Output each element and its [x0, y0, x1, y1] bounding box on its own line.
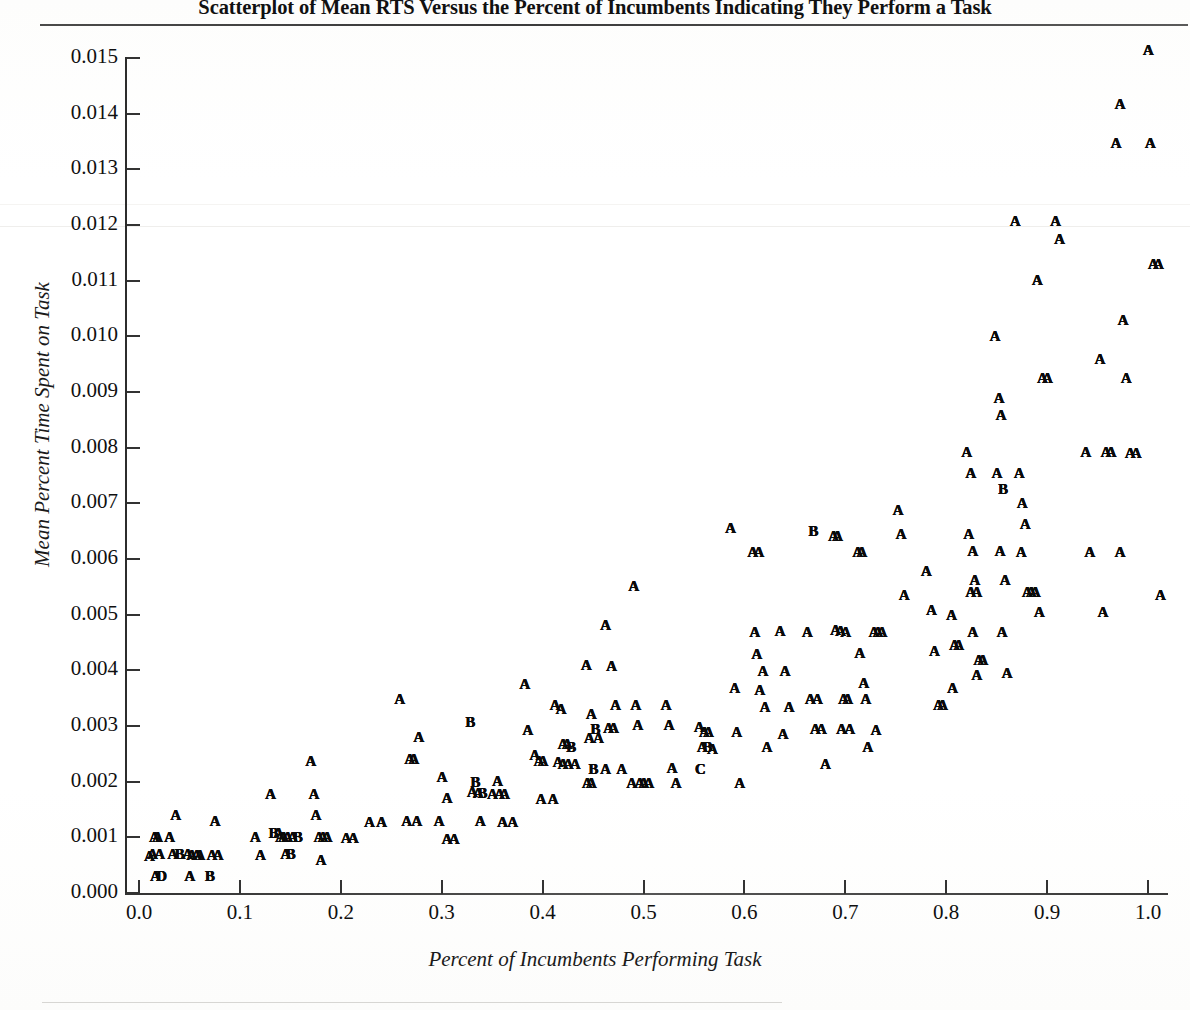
- scatter-marker-a: A: [876, 625, 886, 640]
- scatter-marker-a: A: [305, 753, 315, 768]
- x-tick-label: 1.0: [1118, 900, 1178, 925]
- scatter-marker-a: A: [749, 625, 759, 640]
- x-axis-title: Percent of Incumbents Performing Task: [0, 947, 1190, 972]
- y-tick-label: 0.012: [0, 211, 118, 236]
- scatter-marker-a: A: [661, 697, 671, 712]
- scatter-marker-a: A: [1145, 135, 1155, 150]
- scatter-marker-a: A: [967, 625, 977, 640]
- scatter-marker-a: A: [322, 830, 332, 845]
- scatter-marker-a: A: [778, 727, 788, 742]
- y-tick-mark: [127, 168, 140, 170]
- x-tick-label: 0.0: [109, 900, 169, 925]
- scatter-marker-a: A: [965, 465, 975, 480]
- scatter-marker-a: A: [729, 681, 739, 696]
- scatter-marker-a: A: [1010, 213, 1020, 228]
- scatter-marker-a: A: [753, 545, 763, 560]
- scatter-marker-a: A: [1050, 213, 1060, 228]
- scatter-marker-c: C: [695, 762, 705, 777]
- scatter-marker-a: A: [308, 786, 318, 801]
- scatter-marker-a: A: [816, 721, 826, 736]
- scatter-marker-a: A: [995, 543, 1005, 558]
- scatter-marker-a: A: [1121, 371, 1131, 386]
- scatter-marker-a: A: [967, 543, 977, 558]
- scatter-marker-a: A: [548, 792, 558, 807]
- x-tick-mark: [743, 880, 745, 894]
- scatter-marker-a: A: [213, 848, 223, 863]
- scatter-marker-b: B: [566, 740, 576, 755]
- scatter-marker-a: A: [1016, 545, 1026, 560]
- y-tick-label: 0.008: [0, 434, 118, 459]
- y-tick-label: 0.011: [0, 267, 118, 292]
- y-tick-label: 0.001: [0, 823, 118, 848]
- scatter-marker-a: A: [703, 724, 713, 739]
- y-tick-mark: [127, 335, 140, 337]
- scatter-marker-a: A: [570, 756, 580, 771]
- y-tick-mark: [127, 669, 140, 671]
- scatter-marker-a: A: [963, 526, 973, 541]
- scatter-marker-a: A: [164, 830, 174, 845]
- scatter-marker-a: A: [1115, 96, 1125, 111]
- scatter-marker-b: B: [477, 785, 487, 800]
- x-tick-mark: [542, 880, 544, 894]
- scatter-marker-a: A: [411, 813, 421, 828]
- scatter-marker-a: A: [671, 775, 681, 790]
- x-tick-mark: [1046, 880, 1048, 894]
- y-tick-label: 0.010: [0, 322, 118, 347]
- x-tick-mark: [945, 880, 947, 894]
- y-tick-mark: [127, 614, 140, 616]
- y-tick-mark: [127, 224, 140, 226]
- x-tick-mark: [239, 880, 241, 894]
- scatter-marker-a: A: [255, 848, 265, 863]
- scatter-marker-a: A: [519, 677, 529, 692]
- x-tick-label: 0.3: [412, 900, 472, 925]
- scatter-marker-a: A: [610, 697, 620, 712]
- scatter-marker-a: A: [991, 465, 1001, 480]
- scatter-marker-a: A: [759, 699, 769, 714]
- scatter-marker-a: A: [775, 624, 785, 639]
- scatter-marker-a: A: [757, 664, 767, 679]
- scatter-marker-a: A: [844, 721, 854, 736]
- scatter-marker-a: A: [754, 682, 764, 697]
- y-tick-label: 0.013: [0, 155, 118, 180]
- scatter-marker-a: A: [413, 730, 423, 745]
- scatter-marker-a: A: [1054, 231, 1064, 246]
- x-tick-label: 0.9: [1017, 900, 1077, 925]
- scatter-marker-a: A: [630, 697, 640, 712]
- scatter-marker-a: A: [348, 831, 358, 846]
- scatter-marker-a: A: [667, 760, 677, 775]
- y-tick-mark: [127, 113, 140, 115]
- scatter-marker-a: A: [996, 408, 1006, 423]
- scatter-marker-a: A: [442, 791, 452, 806]
- x-tick-label: 0.8: [916, 900, 976, 925]
- scatter-marker-a: A: [537, 753, 547, 768]
- scatter-marker-a: A: [394, 692, 404, 707]
- scatter-marker-a: A: [734, 775, 744, 790]
- scatter-marker-a: A: [1097, 604, 1107, 619]
- scatter-marker-a: A: [832, 528, 842, 543]
- scatter-marker-a: A: [499, 786, 509, 801]
- scatter-marker-a: A: [643, 775, 653, 790]
- scatter-marker-a: A: [842, 692, 852, 707]
- scatter-marker-a: A: [608, 721, 618, 736]
- scatter-marker-a: A: [820, 756, 830, 771]
- scatter-marker-a: A: [1014, 465, 1024, 480]
- scatter-marker-a: A: [586, 775, 596, 790]
- x-tick-mark: [844, 880, 846, 894]
- scatter-marker-a: A: [893, 503, 903, 518]
- scatter-marker-a: A: [921, 564, 931, 579]
- scatter-marker-a: A: [606, 658, 616, 673]
- scatter-marker-a: A: [1080, 445, 1090, 460]
- x-tick-label: 0.2: [311, 900, 371, 925]
- scatter-marker-a: A: [946, 607, 956, 622]
- scatter-marker-a: A: [628, 578, 638, 593]
- scatter-marker-a: A: [475, 813, 485, 828]
- scatter-marker-a: A: [1020, 517, 1030, 532]
- scatter-marker-a: A: [1084, 545, 1094, 560]
- scatter-marker-b: B: [465, 714, 475, 729]
- x-tick-label: 0.1: [210, 900, 270, 925]
- scatter-marker-a: A: [1094, 351, 1104, 366]
- y-tick-label: 0.015: [0, 44, 118, 69]
- y-axis-title: Mean Percent Time Spent on Task: [30, 245, 55, 605]
- scatter-marker-a: A: [1032, 272, 1042, 287]
- x-tick-mark: [441, 880, 443, 894]
